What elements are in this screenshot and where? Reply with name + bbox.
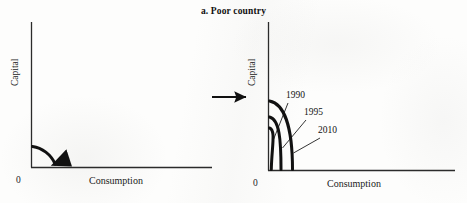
leader-line-2010 [294,138,321,153]
left-panel-axes [31,22,212,168]
curve-label-2010: 2010 [318,125,337,135]
figure-drawing [0,0,467,203]
right-panel-origin-label: 0 [253,178,258,188]
right-panel-y-axis-label: Capital [247,59,257,86]
right-panel-frontier-curves [270,101,293,170]
left-panel-origin-label: 0 [16,175,21,185]
leader-line-1995 [283,120,307,148]
left-panel-frontier-curve [33,147,56,165]
right-panel-x-axis-label: Consumption [327,178,381,189]
left-panel-x-axis-label: Consumption [89,175,143,186]
figure-container: a. Poor country [0,0,467,203]
frontier-2010-path [270,128,274,170]
curve-label-1990: 1990 [286,90,305,100]
left-panel-y-axis-label: Capital [10,59,20,86]
curve-label-1995: 1995 [304,107,323,117]
